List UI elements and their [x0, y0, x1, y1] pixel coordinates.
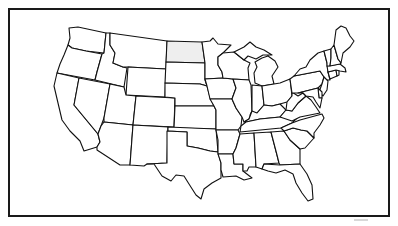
- state-arizona[interactable]: [97, 122, 133, 165]
- scan-artifact: [354, 219, 368, 221]
- state-montana[interactable]: [110, 33, 167, 69]
- state-north-dakota[interactable]: [166, 41, 205, 63]
- state-south-dakota[interactable]: [165, 62, 207, 86]
- us-map: [0, 0, 398, 226]
- state-kansas[interactable]: [174, 106, 216, 129]
- state-iowa[interactable]: [205, 78, 236, 99]
- state-new-mexico[interactable]: [130, 125, 168, 166]
- state-maine[interactable]: [334, 26, 354, 63]
- state-colorado[interactable]: [133, 96, 175, 127]
- state-wyoming[interactable]: [126, 67, 166, 97]
- state-florida[interactable]: [262, 164, 313, 201]
